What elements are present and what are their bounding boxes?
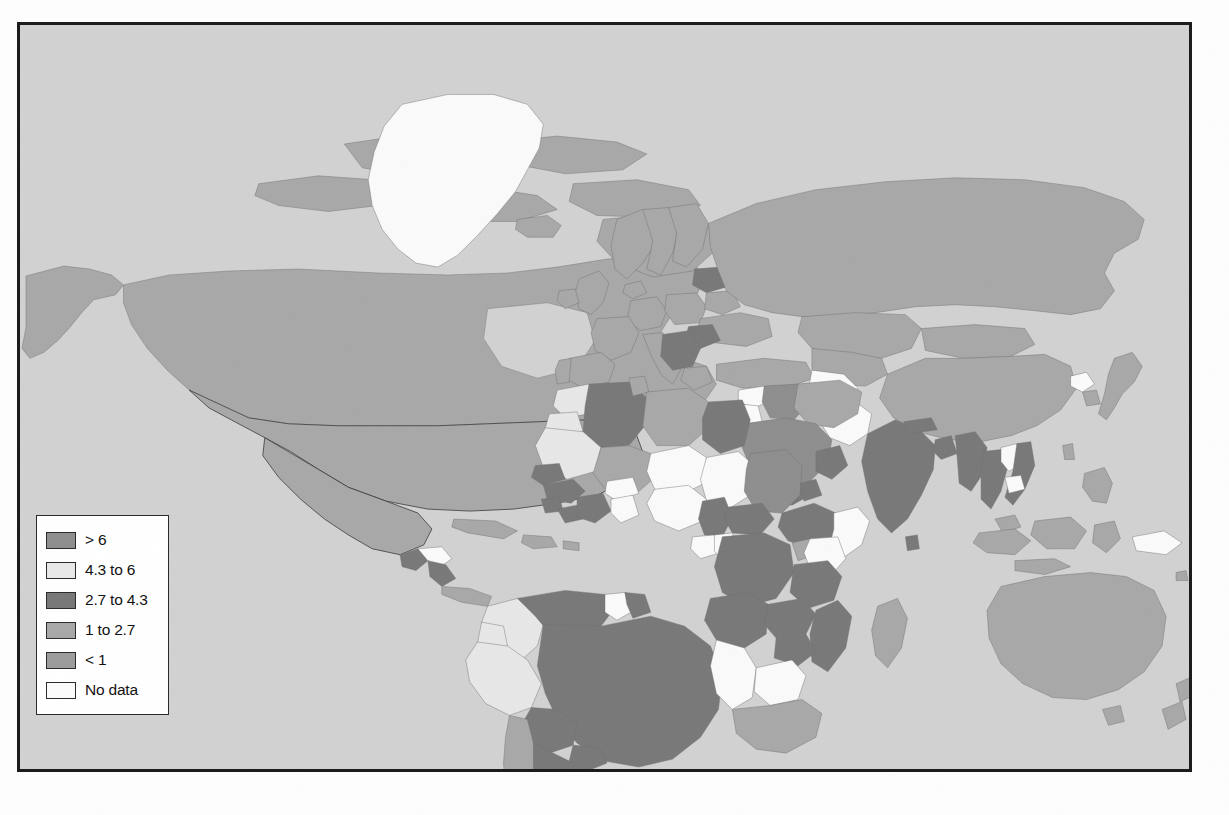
legend-swatch-no-data	[46, 682, 76, 699]
country-botswana	[754, 660, 806, 706]
legend-swatch-1-27	[46, 622, 76, 639]
legend-item-27-43[interactable]: 2.7 to 4.3	[46, 585, 160, 615]
legend-swatch-gt6	[46, 532, 76, 549]
legend-label-1-27: 1 to 2.7	[85, 621, 135, 639]
legend-label-27-43: 2.7 to 4.3	[85, 591, 148, 609]
map-frame	[17, 22, 1192, 772]
country-taiwan	[1063, 444, 1075, 460]
legend-item-43-6[interactable]: 4.3 to 6	[46, 555, 160, 585]
legend-item-1-27[interactable]: 1 to 2.7	[46, 615, 160, 645]
legend-label-gt6: > 6	[85, 531, 106, 549]
legend-swatch-lt1	[46, 652, 76, 669]
country-sri-lanka	[905, 535, 919, 551]
country-puerto-rico	[563, 541, 579, 551]
legend-item-gt6[interactable]: > 6	[46, 525, 160, 555]
legend-label-43-6: 4.3 to 6	[85, 561, 135, 579]
map-legend: > 6 4.3 to 6 2.7 to 4.3 1 to 2.7 < 1 No …	[36, 515, 169, 715]
country-libya	[643, 388, 709, 446]
world-map	[20, 25, 1189, 769]
legend-swatch-43-6	[46, 562, 76, 579]
legend-item-lt1[interactable]: < 1	[46, 645, 160, 675]
legend-swatch-27-43	[46, 592, 76, 609]
legend-item-no-data[interactable]: No data	[46, 675, 160, 705]
legend-label-lt1: < 1	[85, 651, 106, 669]
legend-label-no-data: No data	[85, 681, 138, 699]
island-fiji	[1176, 571, 1188, 581]
